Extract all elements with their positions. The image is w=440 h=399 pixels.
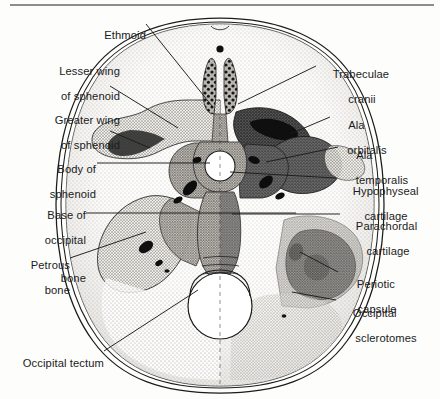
label-hypophyseal-line1: Hypophyseal bbox=[353, 185, 419, 197]
label-periotic-line1: Periotic bbox=[357, 278, 395, 290]
label-ala-orbitalis-line1: Ala bbox=[348, 119, 364, 131]
label-occipital-sclerotomes-line2: sclerotomes bbox=[340, 332, 432, 345]
label-parachordal-line2: cartilage bbox=[343, 245, 433, 258]
label-occipital-tectum: Occipital tectum bbox=[6, 344, 104, 382]
label-body-sphenoid-line1: Body of bbox=[57, 163, 96, 175]
label-ethmoid-line1: Ethmoid bbox=[104, 29, 146, 41]
label-base-occipital-line1: Base of bbox=[47, 209, 86, 221]
label-petrous-bone-line1: Petrous bbox=[31, 259, 70, 271]
label-occipital-sclerotomes-line1: Occipital bbox=[353, 307, 397, 319]
label-occipital-tectum-line1: Occipital tectum bbox=[23, 357, 104, 369]
label-base-occipital-line2: occipital bbox=[20, 234, 86, 247]
ethmoid-nodule bbox=[216, 45, 223, 52]
label-greater-wing-line1: Greater wing bbox=[55, 114, 120, 126]
label-occipital-sclerotomes: Occipital sclerotomes bbox=[340, 294, 432, 370]
label-ethmoid: Ethmoid bbox=[60, 16, 146, 54]
label-petrous-bone-line2: bone bbox=[16, 284, 70, 297]
foramen-magnum bbox=[188, 273, 252, 339]
label-parachordal-line1: Parachordal bbox=[356, 220, 417, 232]
anatomical-figure: Ethmoid Lesser wing of sphenoid Greater … bbox=[0, 0, 440, 399]
label-ala-temporalis-line1: Ala bbox=[356, 149, 372, 161]
label-trabeculae-line2: cranii bbox=[320, 93, 404, 106]
label-trabeculae-line1: Trabeculae bbox=[333, 68, 390, 80]
label-lesser-wing-line1: Lesser wing bbox=[59, 65, 120, 77]
label-petrous-bone: Petrous bone bbox=[16, 246, 70, 322]
